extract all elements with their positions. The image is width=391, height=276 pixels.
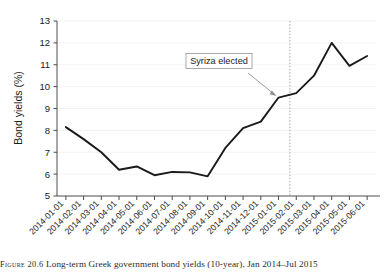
figure-caption-label: Figure 20.6 — [0, 260, 44, 269]
y-tick-label: 5 — [45, 190, 50, 201]
figure-caption-text: Long-term Greek government bond yields (… — [46, 259, 318, 269]
y-tick-label: 6 — [45, 169, 50, 180]
y-tick-label: 12 — [39, 37, 50, 48]
y-tick-label: 8 — [45, 125, 50, 136]
y-axis-ticks: 5678910111213 — [39, 15, 57, 201]
figure-container: 5678910111213 2014-01-012014-02-012014-0… — [0, 0, 391, 276]
y-axis-title: Bond yields (%) — [12, 71, 24, 145]
bond-yields-line-chart: 5678910111213 2014-01-012014-02-012014-0… — [0, 0, 391, 258]
figure-caption: Figure 20.6 Long-term Greek government b… — [0, 259, 391, 269]
y-tick-label: 9 — [45, 103, 50, 114]
y-tick-label: 11 — [40, 59, 50, 70]
annotation-label: Syriza elected — [190, 56, 248, 66]
y-tick-label: 7 — [45, 147, 50, 158]
x-axis-ticks: 2014-01-012014-02-012014-03-012014-04-01… — [27, 196, 367, 237]
syriza-elected-annotation: Syriza elected — [186, 54, 252, 69]
y-tick-label: 10 — [39, 81, 50, 92]
y-tick-label: 13 — [39, 15, 50, 26]
